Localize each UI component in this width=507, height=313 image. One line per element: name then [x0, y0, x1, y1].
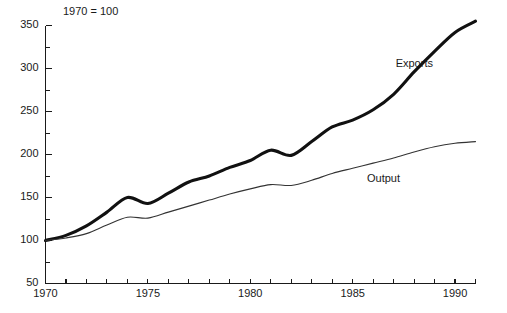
series-line-exports: [46, 21, 476, 240]
x-tick-label: 1975: [136, 287, 160, 299]
index-note: 1970 = 100: [63, 5, 118, 17]
series-label-output: Output: [367, 172, 400, 184]
y-tick-label: 200: [20, 147, 38, 159]
y-tick-label: 350: [20, 18, 38, 30]
y-tick-label: 250: [20, 104, 38, 116]
x-tick-label: 1990: [443, 287, 467, 299]
series-labels: ExportsOutput: [367, 57, 433, 184]
series-label-exports: Exports: [396, 57, 434, 69]
y-tick-label: 300: [20, 61, 38, 73]
chart-container: 1970 = 100 50100150200250300350 19701975…: [0, 0, 507, 313]
series-group: [46, 21, 476, 240]
y-axis: 50100150200250300350: [20, 18, 51, 288]
index-note-group: 1970 = 100: [63, 5, 118, 17]
line-chart: 1970 = 100 50100150200250300350 19701975…: [0, 0, 507, 313]
y-tick-label: 100: [20, 233, 38, 245]
x-tick-label: 1985: [340, 287, 364, 299]
x-tick-label: 1980: [238, 287, 262, 299]
x-tick-label: 1970: [33, 287, 57, 299]
x-axis: 19701975198019851990: [33, 279, 475, 299]
y-tick-label: 150: [20, 190, 38, 202]
